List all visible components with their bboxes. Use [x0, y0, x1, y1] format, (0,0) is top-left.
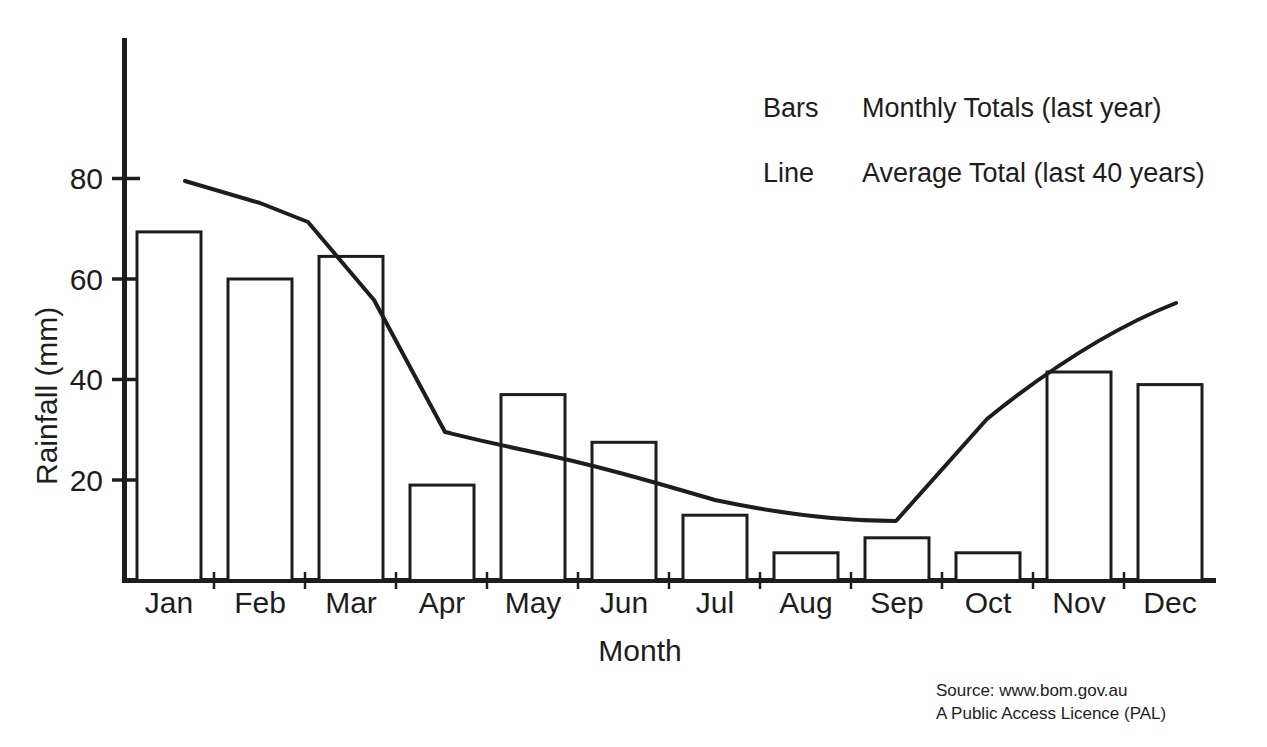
legend-label-line: Average Total (last 40 years)	[862, 158, 1205, 188]
source-line-2: A Public Access Licence (PAL)	[936, 704, 1166, 723]
bar-dec	[1138, 385, 1202, 581]
legend-key-bars: Bars	[763, 93, 819, 123]
bar-feb	[228, 279, 292, 581]
bar-jul	[683, 515, 747, 580]
bar-mar	[319, 256, 383, 580]
y-tick-label-20: 20	[70, 464, 103, 497]
bar-jun	[592, 442, 656, 580]
x-label-mar: Mar	[325, 586, 377, 619]
x-axis-category-labels: Jan Feb Mar Apr May Jun Jul Aug Sep Oct …	[145, 586, 1197, 619]
chart-legend: Bars Monthly Totals (last year) Line Ave…	[763, 93, 1205, 188]
x-axis-title: Month	[598, 634, 681, 667]
bar-jan	[137, 232, 201, 581]
x-label-sep: Sep	[870, 586, 923, 619]
bar-oct	[956, 553, 1020, 581]
bar-aug	[774, 553, 838, 581]
x-label-jun: Jun	[600, 586, 648, 619]
x-label-nov: Nov	[1052, 586, 1105, 619]
source-attribution: Source: www.bom.gov.au A Public Access L…	[936, 681, 1166, 723]
bars-series-monthly-totals	[137, 232, 1202, 581]
bar-may	[501, 395, 565, 581]
x-label-dec: Dec	[1143, 586, 1196, 619]
x-label-apr: Apr	[419, 586, 466, 619]
bar-sep	[865, 538, 929, 581]
chart-canvas: 80 60 40 20 Rainfall (mm)	[0, 0, 1267, 747]
bar-nov	[1047, 372, 1111, 581]
source-line-1: Source: www.bom.gov.au	[936, 681, 1128, 700]
x-label-jan: Jan	[145, 586, 193, 619]
bar-apr	[410, 485, 474, 580]
y-axis-tick-labels: 80 60 40 20	[70, 162, 103, 497]
x-label-feb: Feb	[234, 586, 286, 619]
rainfall-chart-figure: 80 60 40 20 Rainfall (mm)	[0, 0, 1267, 747]
x-label-aug: Aug	[779, 586, 832, 619]
y-axis-title: Rainfall (mm)	[30, 307, 63, 485]
y-tick-label-40: 40	[70, 363, 103, 396]
x-label-jul: Jul	[696, 586, 734, 619]
x-label-oct: Oct	[965, 586, 1012, 619]
y-tick-label-60: 60	[70, 263, 103, 296]
x-label-may: May	[505, 586, 562, 619]
y-tick-label-80: 80	[70, 162, 103, 195]
legend-key-line: Line	[763, 158, 814, 188]
legend-label-bars: Monthly Totals (last year)	[862, 93, 1162, 123]
